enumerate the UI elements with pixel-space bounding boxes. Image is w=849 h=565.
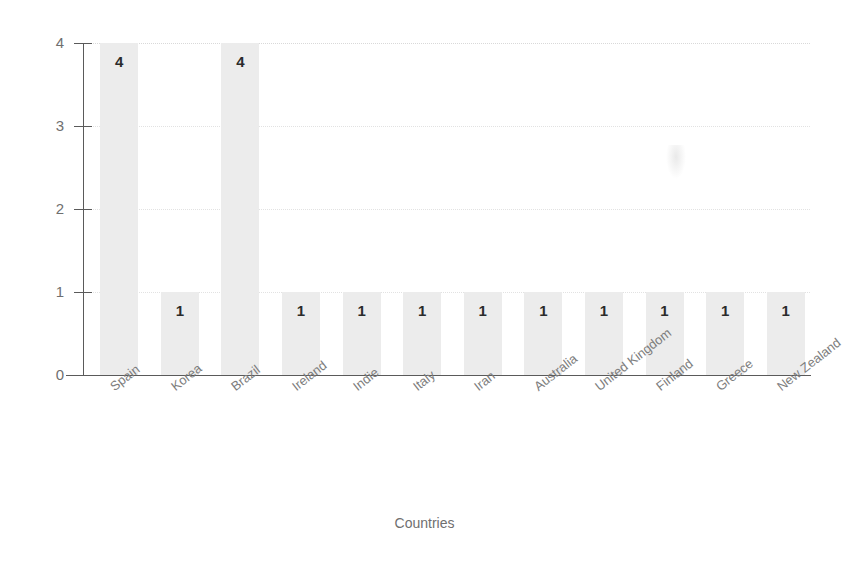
bar-value-label: 1 — [343, 303, 381, 318]
x-axis-title: Countries — [0, 515, 849, 531]
bar-chart: 414111111111 01234 SpainKoreaBrazilIrela… — [0, 0, 849, 565]
y-axis-tick — [74, 43, 92, 44]
bar-australia[interactable]: 1 — [524, 43, 562, 375]
bar-indie[interactable]: 1 — [343, 43, 381, 375]
bar-value-label: 1 — [524, 303, 562, 318]
bar-value-label: 1 — [161, 303, 199, 318]
bar-value-label: 1 — [585, 303, 623, 318]
y-axis-tick-label: 1 — [42, 284, 64, 299]
y-axis-tick-label: 2 — [42, 201, 64, 216]
bar-iran[interactable]: 1 — [464, 43, 502, 375]
bar-value-label: 1 — [646, 303, 684, 318]
bar-new-zealand[interactable]: 1 — [767, 43, 805, 375]
y-axis-tick-label: 0 — [42, 367, 64, 382]
bar-value-label: 4 — [221, 54, 259, 69]
y-axis-tick-label: 4 — [42, 35, 64, 50]
bar-value-label: 1 — [282, 303, 320, 318]
bar-greece[interactable]: 1 — [706, 43, 744, 375]
bar-rect — [100, 43, 138, 375]
bar-italy[interactable]: 1 — [403, 43, 441, 375]
bar-value-label: 1 — [464, 303, 502, 318]
y-axis-tick — [74, 126, 92, 127]
plot-area: 414111111111 — [83, 43, 810, 375]
y-axis-tick-label: 3 — [42, 118, 64, 133]
bar-ireland[interactable]: 1 — [282, 43, 320, 375]
y-axis-tick — [74, 292, 92, 293]
bar-spain[interactable]: 4 — [100, 43, 138, 375]
bar-korea[interactable]: 1 — [161, 43, 199, 375]
y-axis-tick — [74, 209, 92, 210]
bar-rect — [221, 43, 259, 375]
bar-value-label: 4 — [100, 54, 138, 69]
y-axis-tick — [74, 375, 92, 376]
bar-value-label: 1 — [706, 303, 744, 318]
bar-brazil[interactable]: 4 — [221, 43, 259, 375]
bar-value-label: 1 — [403, 303, 441, 318]
bar-united-kingdom[interactable]: 1 — [585, 43, 623, 375]
bar-value-label: 1 — [767, 303, 805, 318]
